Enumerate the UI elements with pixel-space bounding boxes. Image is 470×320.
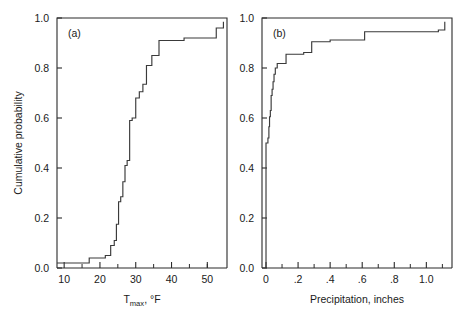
x-ticklabel: 30 [130, 273, 142, 285]
y-ticklabel: 1.0 [239, 12, 254, 24]
y-ticklabel: 0.2 [34, 212, 49, 224]
figure-container: 0.00.20.40.60.81.0 1020304050 (a) Tmax, … [0, 0, 470, 320]
panel-a-x-axis-label: Tmax, °F [123, 293, 160, 308]
panel-b: 0.00.20.40.60.81.0 0.2.4.6.81.0 (b) Prec… [239, 12, 452, 305]
y-ticklabel: 0.0 [239, 262, 254, 274]
panel-a: 0.00.20.40.60.81.0 1020304050 (a) Tmax, … [34, 12, 227, 308]
panel-a-frame [57, 18, 227, 268]
y-ticklabel: 0.6 [34, 112, 49, 124]
x-ticklabel: 0 [263, 273, 269, 285]
y-ticklabel: 0.0 [34, 262, 49, 274]
panel-b-x-axis-label: Precipitation, inches [310, 293, 404, 305]
panel-b-x-ticks [266, 262, 442, 268]
panel-a-y-ticklabels: 0.00.20.40.60.81.0 [34, 12, 49, 274]
panel-a-y-ticks [57, 18, 62, 268]
x-ticklabel: .4 [326, 273, 335, 285]
y-ticklabel: 0.4 [239, 162, 254, 174]
y-axis-label: Cumulative probability [12, 91, 24, 195]
y-ticklabel: 0.4 [34, 162, 49, 174]
panel-b-x-ticklabels: 0.2.4.6.81.0 [263, 273, 434, 285]
x-ticklabel: .8 [390, 273, 399, 285]
x-ticklabel: 20 [94, 273, 106, 285]
x-ticklabel: .2 [294, 273, 303, 285]
panel-a-ecdf-curve [57, 22, 223, 263]
panel-b-ecdf-curve [266, 22, 445, 268]
x-ticklabel: .6 [358, 273, 367, 285]
panel-b-frame [262, 18, 452, 268]
panel-a-x-ticklabels: 1020304050 [58, 273, 213, 285]
x-ticklabel: 10 [58, 273, 70, 285]
x-ticklabel: 1.0 [419, 273, 434, 285]
y-ticklabel: 1.0 [34, 12, 49, 24]
y-ticklabel: 0.2 [239, 212, 254, 224]
x-ticklabel: 40 [166, 273, 178, 285]
y-ticklabel: 0.8 [239, 62, 254, 74]
panel-a-tag: (a) [68, 27, 81, 39]
cumulative-probability-figure: 0.00.20.40.60.81.0 1020304050 (a) Tmax, … [0, 0, 470, 320]
panel-b-y-ticklabels: 0.00.20.40.60.81.0 [239, 12, 254, 274]
panel-b-tag: (b) [273, 27, 286, 39]
x-ticklabel: 50 [201, 273, 213, 285]
y-ticklabel: 0.8 [34, 62, 49, 74]
y-ticklabel: 0.6 [239, 112, 254, 124]
